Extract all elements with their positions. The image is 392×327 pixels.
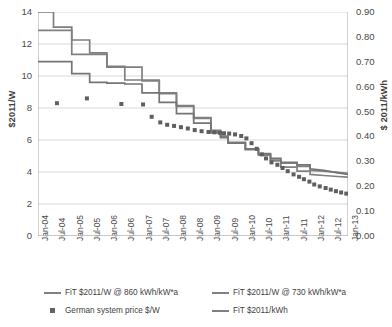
x-tick: Jan-13 <box>351 215 360 241</box>
y-tick-left: 2 <box>4 199 32 209</box>
legend-item-label: FiT $2011/W @ 860 kWh/kW*a <box>65 288 178 297</box>
series-line <box>38 30 348 177</box>
series-marker <box>281 166 285 170</box>
series-marker <box>292 172 296 176</box>
series-marker <box>179 125 183 129</box>
y-tick-right: 0.40 <box>356 131 386 141</box>
series-marker <box>307 180 311 184</box>
series-marker <box>264 156 268 160</box>
y-tick-right: 0.30 <box>356 156 386 166</box>
chart-legend: FiT $2011/W @ 860 kWh/kW*aFiT $2011/W @ … <box>44 288 374 315</box>
series-marker <box>212 130 216 134</box>
series-marker <box>329 188 333 192</box>
legend-square-icon <box>50 308 55 313</box>
y-tick-left: 6 <box>4 135 32 145</box>
series-marker <box>172 124 176 128</box>
y-tick-left: 4 <box>4 167 32 177</box>
legend-item[interactable]: FiT $2011/W @ 730 kWh/kW*a <box>212 288 374 297</box>
y-tick-left: 12 <box>4 39 32 49</box>
series-marker <box>244 136 248 140</box>
legend-line-swatch <box>212 310 229 312</box>
y-tick-right: 0.00 <box>356 231 386 241</box>
series-marker <box>334 189 338 193</box>
y-tick-right: 0.70 <box>356 57 386 67</box>
y-tick-right: 0.80 <box>356 32 386 42</box>
series-marker <box>233 132 237 136</box>
series-marker <box>119 102 123 106</box>
legend-item-label: FiT $2011/W @ 730 kWh/kW*a <box>233 288 346 297</box>
legend-item-label: German system price $/W <box>65 306 160 315</box>
series-marker <box>186 126 190 130</box>
legend-line-swatch <box>44 292 61 294</box>
series-marker <box>227 132 231 136</box>
y-tick-right: 0.60 <box>356 82 386 92</box>
series-marker <box>222 131 226 135</box>
y-tick-right: 0.10 <box>356 206 386 216</box>
series-marker <box>275 163 279 167</box>
legend-item[interactable]: FiT $2011/W @ 860 kWh/kW*a <box>44 288 212 297</box>
y-tick-left: 0 <box>4 231 32 241</box>
y-tick-right: 0.50 <box>356 107 386 117</box>
series-marker <box>207 130 211 134</box>
series-marker <box>218 131 222 135</box>
plot-area <box>38 12 348 236</box>
series-marker <box>324 186 328 190</box>
series-marker <box>250 141 254 145</box>
series-marker <box>165 123 169 127</box>
y-tick-left: 10 <box>4 71 32 81</box>
series-marker <box>260 152 264 156</box>
y-tick-left: 8 <box>4 103 32 113</box>
series-marker <box>302 177 306 181</box>
chart-container: $2011/W $ 2011/kWh 02468101214 0.000.100… <box>0 0 392 327</box>
legend-item[interactable]: FiT $2011/kWh <box>212 306 374 315</box>
series-marker <box>255 147 259 151</box>
y-tick-right: 0.90 <box>356 7 386 17</box>
series-marker <box>85 96 89 100</box>
series-marker <box>318 184 322 188</box>
series-marker <box>297 175 301 179</box>
legend-item-label: FiT $2011/kWh <box>233 306 288 315</box>
series-line <box>38 12 348 173</box>
series-marker <box>270 160 274 164</box>
plot-svg <box>38 12 348 236</box>
series-marker <box>286 169 290 173</box>
series-marker <box>344 192 348 196</box>
series-marker <box>193 128 197 132</box>
series-marker <box>158 120 162 124</box>
legend-square-swatch <box>44 306 61 315</box>
series-marker <box>150 115 154 119</box>
series-marker <box>339 190 343 194</box>
series-marker <box>55 101 59 105</box>
legend-item[interactable]: German system price $/W <box>44 306 212 315</box>
series-marker <box>239 134 243 138</box>
series-marker <box>312 182 316 186</box>
legend-line-swatch <box>212 292 229 294</box>
series-marker <box>200 129 204 133</box>
y-tick-right: 0.20 <box>356 181 386 191</box>
series-line <box>38 62 348 175</box>
y-tick-left: 14 <box>4 7 32 17</box>
series-marker <box>141 102 145 106</box>
